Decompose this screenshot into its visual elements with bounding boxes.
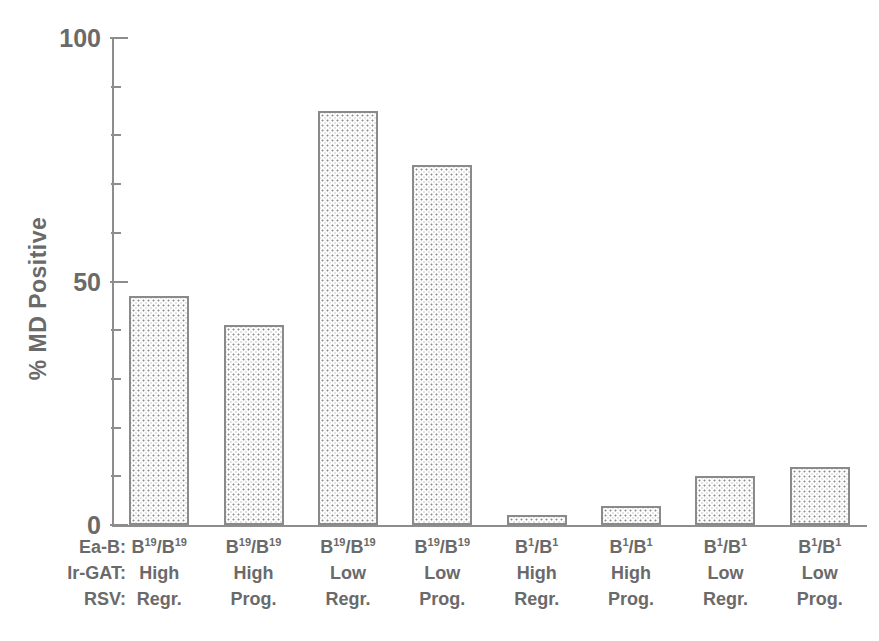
y-tick-minor-20 (111, 427, 121, 429)
bar (790, 467, 850, 525)
y-tick-major-50: 50 (110, 281, 128, 283)
bar (695, 476, 755, 525)
y-tick-label-50: 50 (73, 267, 101, 296)
bar (601, 506, 661, 525)
y-tick-label-100: 100 (59, 24, 101, 53)
y-tick-minor-10 (111, 475, 121, 477)
y-tick-major-0: 0 (110, 524, 128, 526)
plot-area: 050100 (112, 38, 867, 525)
x-label-ir-gat-8: Low (765, 563, 875, 584)
bar (318, 111, 378, 525)
y-tick-major-100: 100 (110, 37, 128, 39)
y-tick-minor-30 (111, 378, 121, 380)
y-tick-minor-90 (111, 86, 121, 88)
x-label-rsv-8: Prog. (765, 589, 875, 610)
y-tick-minor-40 (111, 329, 121, 331)
bar (412, 165, 472, 525)
bar (507, 515, 567, 525)
y-tick-minor-70 (111, 183, 121, 185)
y-tick-minor-60 (111, 232, 121, 234)
bar (129, 296, 189, 525)
bar (224, 325, 284, 525)
x-axis-line (112, 525, 867, 527)
y-tick-minor-80 (111, 134, 121, 136)
x-axis-label-table: Ea-B: Ir-GAT: RSV: B19/B19HighRegr.B19/B… (0, 533, 879, 633)
bar-chart-figure: % MD Positive 050100 Ea-B: Ir-GAT: RSV: … (0, 0, 879, 641)
y-axis-title: % MD Positive (25, 169, 52, 429)
x-label-ea-b-8: B1/B1 (765, 537, 875, 558)
